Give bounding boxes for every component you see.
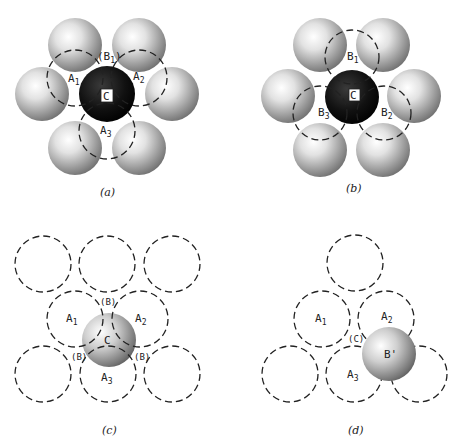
- sphere-grey: [48, 121, 102, 175]
- label-b1: B1: [347, 50, 359, 65]
- sphere-grey: [293, 18, 347, 72]
- label-b-top: (B): [100, 297, 116, 307]
- caption-c: (c): [102, 424, 117, 437]
- sphere-grey: [48, 18, 102, 72]
- sphere-grey: [356, 123, 410, 177]
- sphere-grey: [293, 123, 347, 177]
- label-a3: A3: [100, 124, 112, 139]
- dashed-circle: [144, 236, 200, 292]
- sphere-grey: [387, 69, 441, 123]
- sphere-grey: [356, 18, 410, 72]
- sphere-grey: [15, 67, 69, 121]
- dashed-circle: [144, 346, 200, 402]
- sphere-grey: [112, 18, 166, 72]
- panel-b: C B1 B3 B2 (b): [261, 18, 441, 195]
- caption-d: (d): [348, 424, 364, 437]
- label-c: C: [350, 89, 357, 102]
- caption-b: (b): [346, 182, 362, 195]
- label-b1: (B1): [97, 50, 122, 65]
- label-a1: A1: [315, 312, 327, 327]
- label-b-left: (B): [71, 352, 87, 362]
- dashed-circle: [15, 236, 71, 292]
- label-a2: A2: [133, 70, 145, 85]
- label-a3: A3: [347, 368, 359, 383]
- label-a2: A2: [135, 312, 147, 327]
- label-a2: A2: [381, 310, 393, 325]
- label-c: C: [103, 90, 110, 103]
- dashed-circle: [262, 346, 318, 402]
- label-a1: A1: [66, 312, 78, 327]
- panel-d: A1 A2 A3 (C) B' (d): [262, 235, 447, 437]
- dashed-circle: [327, 235, 383, 291]
- sphere-grey: [261, 69, 315, 123]
- sphere-grey: [145, 67, 199, 121]
- label-a1: A1: [68, 72, 80, 87]
- label-b-right: (B): [134, 352, 150, 362]
- panel-a: C A1 A2 A3 (B1) (a): [15, 18, 199, 199]
- label-c: (C): [348, 334, 364, 344]
- panel-c: A1 A2 A3 C (B) (B) (B) (c): [15, 236, 200, 437]
- caption-a: (a): [100, 186, 115, 199]
- label-c: C: [104, 334, 111, 347]
- label-a3: A3: [101, 371, 113, 386]
- dashed-circle: [15, 346, 71, 402]
- close-packing-figure: C A1 A2 A3 (B1) (a) C B1 B3 B2 (b): [0, 0, 459, 443]
- sphere-grey: [112, 121, 166, 175]
- dashed-circle: [79, 236, 135, 292]
- label-b-prime: B': [384, 348, 397, 361]
